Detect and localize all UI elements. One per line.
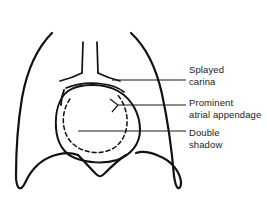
left-main-bronchus [60,73,82,81]
trachea-right-wall [97,42,98,73]
label-splayed-carina-line2: carina [189,76,224,88]
label-double-shadow: Double shadow [189,127,222,150]
label-splayed-carina: Splayed carina [189,64,224,87]
double-shadow-arc [63,94,127,153]
label-atrial-appendage-line1: Prominent [189,97,261,109]
label-prominent-atrial-appendage: Prominent atrial appendage [189,97,261,120]
right-lung-outline [131,33,181,188]
trachea-left-wall [82,42,83,73]
label-double-shadow-line1: Double [189,127,222,139]
label-atrial-appendage-line2: atrial appendage [189,109,261,121]
label-splayed-carina-line1: Splayed [189,64,224,76]
leader-arrow-atrial-appendage [110,99,118,112]
left-lung-outline [16,33,78,188]
chest-xray-diagram: Splayed carina Prominent atrial appendag… [0,0,267,199]
diaphragm-junction [78,155,126,176]
label-double-shadow-line2: shadow [189,139,222,151]
